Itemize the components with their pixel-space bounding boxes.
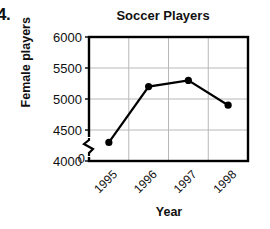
data-point-marker: [225, 102, 232, 109]
y-tick-labels: 40004500500055006000: [53, 30, 82, 169]
y-tick-label: 5000: [53, 92, 82, 107]
x-tick-label: 1995: [91, 167, 120, 196]
data-point-marker: [105, 139, 112, 146]
data-point-marker: [185, 77, 192, 84]
y-tick-label: 6000: [53, 30, 82, 45]
x-tick-labels: 1995199619971998: [91, 167, 239, 196]
y-tick-label: 5500: [53, 61, 82, 76]
y-tick-label: 4500: [53, 123, 82, 138]
line-chart-plot: 40004500500055006000 0 1995199619971998: [0, 0, 270, 229]
data-point-marker: [145, 83, 152, 90]
x-tick-label: 1996: [131, 167, 160, 196]
x-tick-label: 1998: [210, 167, 239, 196]
y-axis-zero-label: 0: [78, 151, 85, 166]
x-tick-label: 1997: [171, 167, 200, 196]
